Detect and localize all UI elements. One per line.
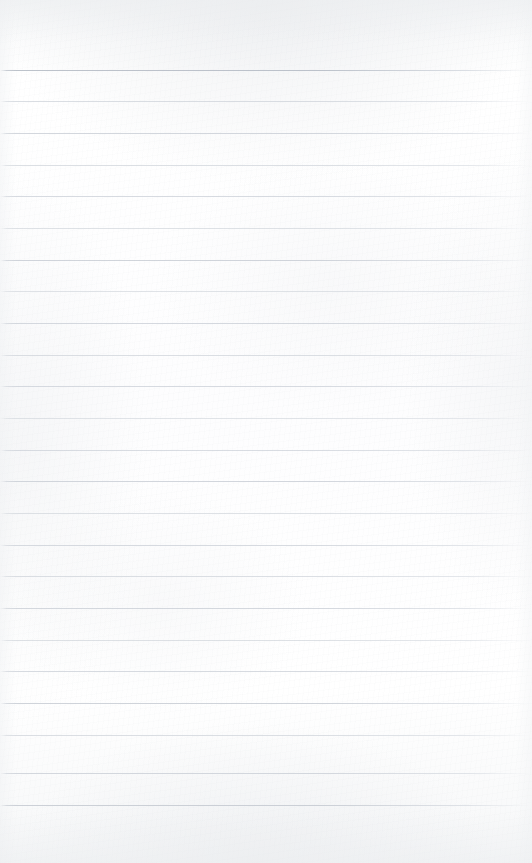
lined-paper-page <box>0 0 532 863</box>
writing-area[interactable] <box>0 0 532 863</box>
